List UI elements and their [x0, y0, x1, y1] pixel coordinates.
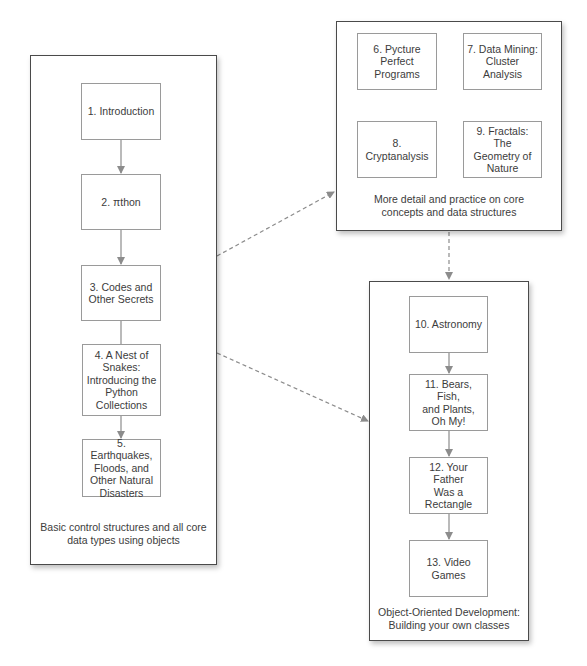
group-oop-caption: Object-Oriented Development: Building yo… [372, 606, 526, 632]
node-ch9[interactable]: 9. Fractals: The Geometry of Nature [463, 121, 542, 178]
node-ch13[interactable]: 13. Video Games [409, 540, 488, 597]
node-ch4[interactable]: 4. A Nest of Snakes: Introducing the Pyt… [82, 344, 161, 416]
dashed-arrow-basics-to-oop [217, 353, 368, 421]
group-practice-caption: More detail and practice on core concept… [341, 193, 557, 219]
node-ch6[interactable]: 6. Pycture Perfect Programs [357, 33, 437, 90]
group-oop: 10. Astronomy 11. Bears, Fish, and Plant… [369, 281, 529, 641]
node-ch5[interactable]: 5. Earthquakes, Floods, and Other Natura… [82, 439, 161, 497]
node-ch7[interactable]: 7. Data Mining: Cluster Analysis [463, 33, 542, 90]
node-ch8[interactable]: 8. Cryptanalysis [357, 121, 437, 178]
group-practice: 6. Pycture Perfect Programs 7. Data Mini… [336, 21, 562, 231]
node-ch10[interactable]: 10. Astronomy [409, 296, 488, 353]
node-ch11[interactable]: 11. Bears, Fish, and Plants, Oh My! [409, 374, 488, 431]
node-ch1[interactable]: 1. Introduction [81, 83, 161, 140]
node-ch3[interactable]: 3. Codes and Other Secrets [81, 265, 161, 321]
group-basics-caption: Basic control structures and all core da… [35, 521, 212, 547]
node-ch12[interactable]: 12. Your Father Was a Rectangle [409, 457, 488, 514]
node-ch2[interactable]: 2. πthon [81, 174, 161, 230]
group-basics: 1. Introduction 2. πthon 3. Codes and Ot… [30, 55, 217, 565]
dashed-arrow-basics-to-practice [217, 192, 334, 256]
